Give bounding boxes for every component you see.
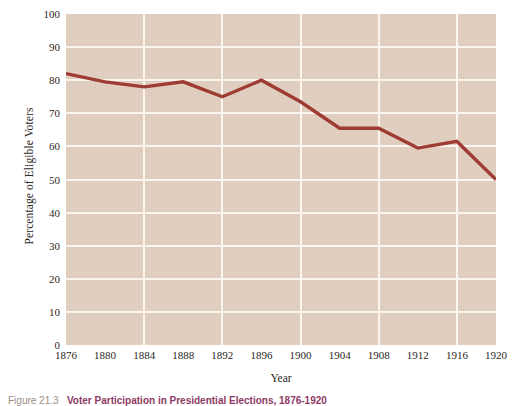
- y-tick-label: 70: [24, 108, 60, 119]
- caption-figure-number: Figure 21.3: [8, 395, 59, 406]
- y-tick-label: 50: [24, 174, 60, 185]
- caption-title: Voter Participation in Presidential Elec…: [67, 395, 327, 406]
- y-tick-label: 10: [24, 306, 60, 317]
- chart-plot-area: [66, 14, 496, 345]
- figure-caption: Figure 21.3 Voter Participation in Presi…: [8, 395, 508, 406]
- y-tick-label: 60: [24, 141, 60, 152]
- y-tick-label: 90: [24, 42, 60, 53]
- y-tick-label: 30: [24, 240, 60, 251]
- y-axis-tick-labels: 0102030405060708090100: [24, 14, 60, 345]
- x-tick-label: 1920: [466, 349, 523, 362]
- x-axis-title: Year: [66, 372, 496, 384]
- y-tick-label: 80: [24, 75, 60, 86]
- y-tick-label: 100: [24, 9, 60, 20]
- y-tick-label: 40: [24, 207, 60, 218]
- data-series-line: [66, 14, 496, 345]
- y-tick-label: 20: [24, 273, 60, 284]
- figure-container: Percentage of Eligible Voters 0102030405…: [0, 0, 523, 406]
- x-axis-tick-labels: 1876188018841888189218961900190419081912…: [66, 349, 496, 367]
